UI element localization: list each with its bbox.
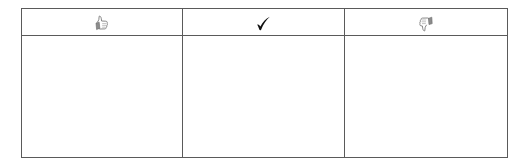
cell-like[interactable]: [22, 36, 183, 158]
cell-like-text: [22, 36, 182, 54]
cell-dislike[interactable]: [345, 36, 508, 158]
three-column-table: [21, 8, 508, 158]
header-cell-like: [22, 9, 183, 36]
check-mark-icon: [256, 16, 271, 31]
header-row: [22, 9, 508, 36]
table-row: [22, 36, 508, 158]
header-cell-check: [183, 9, 345, 36]
cell-check-text: [183, 36, 344, 54]
cell-check[interactable]: [183, 36, 345, 158]
cell-dislike-text: [345, 36, 507, 54]
thumbs-down-icon: [419, 15, 433, 32]
header-cell-dislike: [345, 9, 508, 36]
thumbs-up-icon: [95, 15, 109, 32]
